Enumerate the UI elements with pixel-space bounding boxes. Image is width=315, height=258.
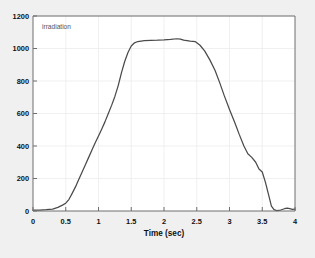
x-tick-label: 1.5 [126, 217, 136, 226]
irradiation-line-chart: 1200 1000 800 600 400 200 0 0 0.5 1 1.5 … [0, 0, 315, 258]
x-axis-title: Time (sec) [144, 229, 185, 238]
y-tick-label: 0 [25, 207, 29, 216]
x-tick-label: 0 [31, 217, 35, 226]
y-tick-label: 400 [17, 142, 29, 151]
x-tick-label: 2 [162, 217, 166, 226]
x-tick-label: 0.5 [61, 217, 71, 226]
y-tick-label: 800 [17, 77, 29, 86]
x-tick-label: 3.5 [257, 217, 267, 226]
x-tick-label: 1 [96, 217, 100, 226]
x-tick-label: 3 [227, 217, 231, 226]
x-tick-label: 2.5 [192, 217, 202, 226]
chart-figure: 1200 1000 800 600 400 200 0 0 0.5 1 1.5 … [0, 0, 315, 258]
legend-label-irradiation: irradiation [42, 23, 71, 30]
y-tick-label: 1200 [13, 12, 29, 21]
y-tick-label: 1000 [13, 44, 29, 53]
y-tick-label: 600 [17, 109, 29, 118]
y-tick-label: 200 [17, 174, 29, 183]
